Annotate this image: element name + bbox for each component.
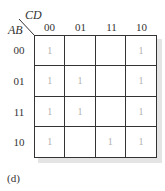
- row-label: 11: [8, 106, 30, 118]
- kmap-cell: 1: [35, 97, 65, 127]
- row-label: 01: [8, 75, 30, 87]
- row-label: 10: [8, 136, 30, 148]
- column-label: 00: [34, 21, 65, 33]
- kmap-cell: 1: [126, 66, 156, 96]
- kmap-cell: [96, 66, 126, 96]
- figure-caption: (d): [7, 172, 20, 184]
- kmap-cell: [65, 127, 95, 157]
- kmap-cell: 1: [96, 127, 126, 157]
- kmap-cell: 1: [35, 127, 65, 157]
- column-label: 10: [126, 21, 157, 33]
- column-label: 01: [65, 21, 96, 33]
- kmap-grid: 1 1 1 1 1 1 1 1 1 1 1: [34, 35, 157, 158]
- karnaugh-map: CD AB 00 01 11 10 00 01 11 10 1 1 1 1 1 …: [0, 0, 165, 191]
- kmap-cell: 1: [65, 66, 95, 96]
- kmap-cell: 1: [126, 97, 156, 127]
- row-variable-label: AB: [8, 23, 23, 38]
- kmap-cell: 1: [35, 36, 65, 66]
- kmap-cell: 1: [35, 66, 65, 96]
- row-label: 00: [8, 44, 30, 56]
- kmap-cell: 1: [126, 36, 156, 66]
- kmap-cell: [96, 36, 126, 66]
- kmap-cell: [96, 97, 126, 127]
- kmap-cell: 1: [65, 97, 95, 127]
- kmap-cell: [65, 36, 95, 66]
- kmap-cell: 1: [126, 127, 156, 157]
- column-label: 11: [96, 21, 127, 33]
